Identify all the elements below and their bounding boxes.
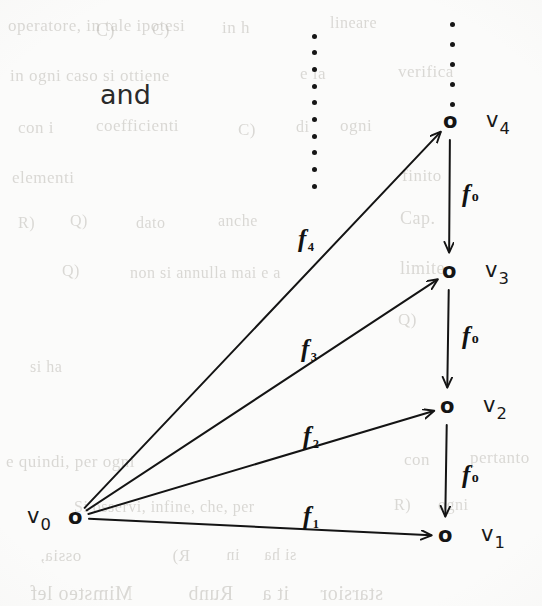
ellipsis-dot	[450, 82, 455, 87]
ellipsis-dot	[312, 34, 317, 39]
edge-f0-32	[447, 290, 448, 387]
morphism-label-subscript: o	[472, 470, 479, 485]
morphism-label-f0-32: fo	[462, 323, 479, 348]
ellipsis-dot	[450, 62, 455, 67]
vertex-label-base: v	[481, 522, 493, 546]
node-glyph-v4: o	[443, 111, 457, 132]
ellipsis-dot	[312, 167, 317, 172]
ellipsis-dot	[312, 50, 317, 55]
vertex-label-subscript: 1	[494, 533, 504, 552]
ellipsis-dot	[312, 184, 317, 189]
node-glyph-v2: o	[440, 396, 454, 417]
morphism-label-f1: f1	[303, 503, 319, 530]
edge-f4	[85, 132, 441, 508]
page-canvas: operatore, in tale ipotesiC)C)in hlinear…	[0, 0, 542, 606]
edge-f0-43	[449, 140, 450, 252]
vertex-label-v3: v3	[485, 260, 509, 287]
ellipsis-dot	[312, 117, 317, 122]
ellipsis-dot	[450, 102, 455, 107]
vertex-label-subscript: 2	[496, 404, 506, 423]
node-glyph-v3: o	[442, 261, 456, 282]
vertex-label-base: v	[486, 108, 498, 132]
ellipsis-dot	[312, 134, 317, 139]
vertex-label-subscript: 4	[499, 119, 509, 138]
ellipsis-dot	[450, 42, 455, 47]
vertex-label-v2: v2	[483, 395, 507, 422]
morphism-label-f2: f2	[303, 423, 319, 450]
vertex-label-base: v	[27, 504, 39, 528]
morphism-label-base: f	[462, 461, 470, 488]
vertex-label-subscript: 3	[498, 269, 508, 288]
morphism-label-f3: f3	[301, 336, 317, 363]
node-glyph-v1: o	[438, 525, 452, 546]
node-glyph-v0: o	[68, 507, 82, 528]
morphism-label-base: f	[303, 502, 311, 529]
ellipsis-dot	[312, 100, 317, 105]
ellipsis-dot	[312, 67, 317, 72]
edge-f3	[87, 280, 438, 511]
edge-f2	[88, 411, 433, 514]
morphism-label-base: f	[298, 225, 306, 252]
morphism-label-subscript: o	[472, 331, 479, 346]
morphism-label-f0-43: fo	[462, 181, 479, 206]
vertex-label-base: v	[483, 393, 495, 417]
ellipsis-dot	[312, 84, 317, 89]
morphism-label-subscript: 2	[313, 437, 319, 451]
morphism-label-base: f	[301, 335, 309, 362]
connective-word-and: and	[100, 81, 151, 108]
morphism-label-base: f	[462, 322, 470, 349]
vertex-label-v4: v4	[486, 110, 510, 137]
morphism-label-base: f	[303, 422, 311, 449]
morphism-label-subscript: 1	[313, 517, 319, 531]
vertex-label-v1: v1	[481, 524, 505, 551]
morphism-label-f0-21: fo	[462, 462, 479, 487]
morphism-label-base: f	[462, 180, 470, 207]
vertex-label-v0: v0	[27, 506, 51, 533]
ellipsis-dot	[450, 22, 455, 27]
ellipsis-dot	[312, 150, 317, 155]
morphism-label-subscript: 3	[311, 350, 317, 364]
morphism-label-subscript: o	[472, 189, 479, 204]
vertex-label-base: v	[485, 258, 497, 282]
vertex-label-subscript: 0	[40, 515, 50, 534]
edge-f0-21	[445, 425, 446, 516]
morphism-label-f4: f4	[298, 226, 314, 253]
edge-f1	[89, 519, 431, 536]
morphism-label-subscript: 4	[308, 240, 314, 254]
